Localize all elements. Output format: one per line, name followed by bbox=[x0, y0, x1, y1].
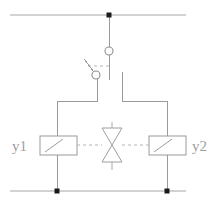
label-y2: y2 bbox=[192, 138, 207, 154]
junction-dot-bottom-right bbox=[165, 189, 170, 194]
switch-upper-terminal-icon[interactable] bbox=[105, 47, 113, 55]
wire-left-branch-to-y1 bbox=[57, 79, 97, 136]
wire-right-branch-to-y2 bbox=[122, 72, 167, 136]
label-y1: y1 bbox=[12, 138, 27, 154]
valve-lower-triangle-icon bbox=[102, 145, 122, 162]
schematic-diagram: y1 y2 bbox=[0, 0, 217, 213]
circuit-schematic-canvas: y1 y2 bbox=[0, 0, 217, 213]
junction-dot-bottom-left bbox=[55, 189, 60, 194]
junction-dot-top bbox=[107, 13, 112, 18]
switch-lower-terminal-icon[interactable] bbox=[92, 71, 100, 79]
valve-upper-triangle-icon bbox=[102, 128, 122, 145]
